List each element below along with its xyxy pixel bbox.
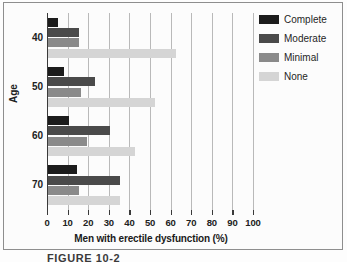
y-tick-label-70: 70 bbox=[21, 179, 43, 190]
legend-label-minimal: Minimal bbox=[284, 52, 318, 63]
legend-swatch-none bbox=[259, 72, 279, 81]
bar-moderate-age-50 bbox=[48, 77, 95, 86]
x-tick-mark-60 bbox=[171, 210, 172, 215]
x-tick-mark-40 bbox=[129, 210, 130, 215]
bar-complete-age-50 bbox=[48, 67, 64, 76]
x-tick-mark-10 bbox=[68, 210, 69, 215]
x-tick-mark-90 bbox=[232, 210, 233, 215]
x-tick-label-90: 90 bbox=[221, 217, 243, 228]
bar-none-age-70 bbox=[48, 196, 120, 205]
bar-moderate-age-40 bbox=[48, 28, 79, 37]
legend-item-moderate: Moderate bbox=[259, 30, 337, 47]
bar-complete-age-40 bbox=[48, 18, 58, 27]
y-axis-title: Age bbox=[8, 84, 19, 103]
x-tick-label-80: 80 bbox=[201, 217, 223, 228]
x-tick-label-0: 0 bbox=[36, 217, 58, 228]
figure-caption: FIGURE 10-2 bbox=[47, 252, 120, 262]
bar-complete-age-70 bbox=[48, 165, 77, 174]
x-tick-mark-50 bbox=[150, 210, 151, 215]
legend-swatch-moderate bbox=[259, 34, 279, 43]
bar-group-age-70 bbox=[48, 165, 253, 205]
legend-label-none: None bbox=[284, 71, 308, 82]
x-tick-label-10: 10 bbox=[57, 217, 79, 228]
legend-swatch-complete bbox=[259, 15, 279, 24]
x-tick-label-50: 50 bbox=[139, 217, 161, 228]
bar-minimal-age-70 bbox=[48, 186, 79, 195]
y-tick-label-60: 60 bbox=[21, 130, 43, 141]
plot-area bbox=[47, 13, 253, 210]
y-tick-label-40: 40 bbox=[21, 32, 43, 43]
bar-minimal-age-50 bbox=[48, 88, 81, 97]
x-tick-mark-20 bbox=[88, 210, 89, 215]
x-tick-label-40: 40 bbox=[118, 217, 140, 228]
legend-label-moderate: Moderate bbox=[284, 33, 326, 44]
chart-legend: CompleteModerateMinimalNone bbox=[259, 11, 337, 87]
legend-item-none: None bbox=[259, 68, 337, 85]
bar-none-age-40 bbox=[48, 49, 176, 58]
figure-root: 0102030405060708090100 40506070 Age Men … bbox=[0, 0, 347, 262]
x-axis-title: Men with erectile dysfunction (%) bbox=[47, 233, 255, 244]
legend-swatch-minimal bbox=[259, 53, 279, 62]
x-tick-label-30: 30 bbox=[98, 217, 120, 228]
bar-complete-age-60 bbox=[48, 116, 69, 125]
x-tick-mark-30 bbox=[109, 210, 110, 215]
legend-item-complete: Complete bbox=[259, 11, 337, 28]
x-tick-mark-80 bbox=[212, 210, 213, 215]
x-tick-mark-70 bbox=[191, 210, 192, 215]
gridline-100 bbox=[253, 13, 254, 210]
x-tick-label-20: 20 bbox=[77, 217, 99, 228]
bar-group-age-50 bbox=[48, 67, 253, 107]
x-tick-label-70: 70 bbox=[180, 217, 202, 228]
x-tick-label-60: 60 bbox=[160, 217, 182, 228]
y-tick-label-50: 50 bbox=[21, 81, 43, 92]
bar-minimal-age-40 bbox=[48, 38, 79, 47]
bar-none-age-50 bbox=[48, 98, 155, 107]
x-tick-mark-0 bbox=[47, 210, 48, 215]
x-tick-mark-100 bbox=[253, 210, 254, 215]
bar-group-age-40 bbox=[48, 18, 253, 58]
bar-moderate-age-70 bbox=[48, 176, 120, 185]
bar-none-age-60 bbox=[48, 147, 135, 156]
x-tick-label-100: 100 bbox=[242, 217, 264, 228]
bar-moderate-age-60 bbox=[48, 126, 110, 135]
legend-item-minimal: Minimal bbox=[259, 49, 337, 66]
legend-label-complete: Complete bbox=[284, 14, 327, 25]
bar-minimal-age-60 bbox=[48, 137, 87, 146]
bar-group-age-60 bbox=[48, 116, 253, 156]
